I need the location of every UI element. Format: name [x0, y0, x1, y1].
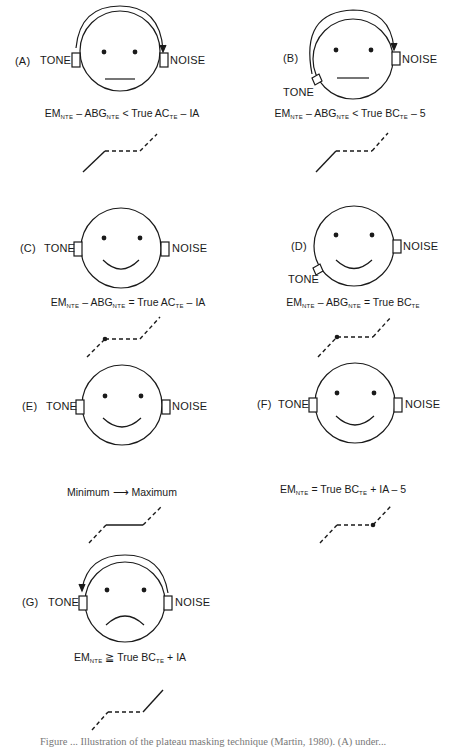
- plateau-marker: [371, 523, 376, 528]
- noise-label: NOISE: [170, 54, 205, 66]
- mouth-smile: [103, 418, 141, 427]
- noise-label: NOISE: [172, 400, 207, 412]
- left-eye: [102, 50, 107, 55]
- panel-e-face-diagram: [0, 360, 228, 535]
- formula-subscript: NTE: [348, 303, 361, 309]
- formula-term: EM: [286, 296, 302, 308]
- panel-label: (D): [291, 240, 307, 252]
- noise-label: NOISE: [403, 240, 438, 252]
- masking-formula: EMNTE = True BCTE + IA – 5: [268, 483, 418, 496]
- formula-subscript: NTE: [113, 303, 126, 309]
- noise-earphone: [161, 242, 169, 256]
- masking-formula: EMNTE ≧ True BCTE + IA: [55, 651, 205, 664]
- formula-subscript: NTE: [66, 303, 79, 309]
- formula-term: – ABG: [303, 107, 336, 119]
- right-eye: [142, 588, 147, 593]
- noise-earphone: [393, 240, 401, 253]
- plateau-graph: [320, 506, 391, 543]
- panel-b-face-diagram: [230, 0, 455, 180]
- left-eye: [335, 391, 340, 396]
- panel-f: (F) TONE NOISE EMNTE = True BCTE + IA – …: [230, 360, 455, 535]
- tone-label: TONE: [288, 273, 319, 285]
- panel-label: (A): [15, 55, 30, 67]
- formula-subscript: TE: [175, 303, 183, 309]
- masking-formula: EMNTE – ABGNTE = True BCTE: [268, 296, 438, 309]
- tone-label: TONE: [46, 400, 77, 412]
- head-outline: [85, 562, 165, 642]
- crossover-arrow-arc: [82, 555, 168, 593]
- noise-label: NOISE: [402, 53, 437, 65]
- panel-c-face-diagram: [0, 180, 228, 360]
- masking-formula: EMNTE – ABGNTE < True ACTE – IA: [32, 107, 212, 120]
- panel-label: (F): [257, 398, 272, 410]
- tone-label: TONE: [48, 596, 79, 608]
- plateau-graph: [87, 317, 160, 357]
- head-outline: [81, 208, 161, 288]
- noise-label: NOISE: [175, 596, 210, 608]
- formula-term: + IA – 5: [367, 483, 406, 495]
- formula-subscript: NTE: [290, 114, 303, 120]
- tone-label: TONE: [40, 54, 71, 66]
- noise-label: NOISE: [172, 242, 207, 254]
- panel-label: (C): [20, 242, 36, 254]
- tone-label: TONE: [44, 242, 75, 254]
- panel-a: (A) TONE NOISE EMNTE – ABGNTE < True ACT…: [0, 0, 228, 180]
- formula-term: EM: [74, 651, 90, 663]
- formula-subscript: NTE: [296, 490, 309, 496]
- left-eye: [102, 236, 107, 241]
- head-outline: [82, 365, 162, 445]
- tone-earphone: [72, 53, 80, 67]
- left-eye: [103, 394, 108, 399]
- plateau-graph: [92, 690, 163, 730]
- formula-subscript: TE: [412, 303, 420, 309]
- tone-earphone: [309, 398, 317, 412]
- right-eye: [138, 236, 143, 241]
- formula-term: = True BC: [309, 483, 359, 495]
- noise-earphone: [160, 53, 168, 67]
- formula-subscript: TE: [169, 114, 177, 120]
- arrowhead-icon: [79, 584, 85, 591]
- tone-label: TONE: [283, 86, 314, 98]
- formula-term: – ABG: [73, 107, 106, 119]
- formula-subscript: NTE: [90, 658, 103, 664]
- panel-g: (G) TONE NOISE EMNTE ≧ True BCTE + IA: [0, 535, 228, 740]
- panel-d: (D) TONE NOISE EMNTE – ABGNTE = True BCT…: [230, 180, 455, 360]
- formula-subscript: TE: [156, 658, 164, 664]
- right-eye: [139, 394, 144, 399]
- formula-term: EM: [274, 107, 290, 119]
- intensity-range-label: Minimum ⟶ Maximum: [52, 486, 192, 498]
- right-eye: [133, 50, 138, 55]
- arrowhead-icon: [160, 45, 166, 52]
- formula-subscript: NTE: [107, 114, 120, 120]
- right-eye: [372, 391, 377, 396]
- left-eye: [105, 588, 110, 593]
- formula-term: + IA: [164, 651, 186, 663]
- panel-c: (C) TONE NOISE EMNTE – ABGNTE = True ACT…: [0, 180, 228, 360]
- formula-term: – 5: [408, 107, 426, 119]
- formula-term: EM: [51, 296, 67, 308]
- plateau-marker: [335, 335, 340, 340]
- mouth-smile: [336, 260, 372, 269]
- noise-label: NOISE: [405, 398, 440, 410]
- formula-term: – ABG: [315, 296, 348, 308]
- right-eye: [370, 233, 375, 238]
- panel-label: (E): [22, 400, 37, 412]
- noise-earphone: [164, 596, 172, 610]
- formula-subscript: NTE: [302, 303, 315, 309]
- tone-label: TONE: [278, 398, 309, 410]
- left-eye: [334, 48, 339, 53]
- crossover-arrow-arc: [76, 6, 163, 50]
- figure-caption: Figure ... Illustration of the plateau m…: [40, 736, 440, 747]
- formula-term: – ABG: [79, 296, 112, 308]
- tone-earphone: [76, 400, 84, 414]
- mouth-smile: [336, 416, 374, 425]
- mouth-smile: [103, 260, 139, 269]
- right-eye: [369, 48, 374, 53]
- head-outline: [315, 363, 395, 443]
- head-outline: [314, 206, 394, 286]
- panel-d-face-diagram: [230, 180, 455, 360]
- formula-term: = True AC: [126, 296, 176, 308]
- formula-subscript: TE: [400, 114, 408, 120]
- panel-b: (B) TONE NOISE EMNTE – ABGNTE < True BCT…: [230, 0, 455, 180]
- panel-f-face-diagram: [230, 360, 455, 535]
